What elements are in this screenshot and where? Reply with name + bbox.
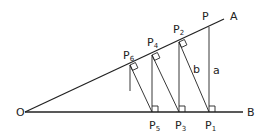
label-B: B xyxy=(247,106,255,119)
label-P2: P2 xyxy=(173,23,184,37)
label-A: A xyxy=(230,10,238,23)
segment-P5-P6 xyxy=(130,65,152,112)
segment-P1-P2-b xyxy=(179,42,209,112)
right-angle-marker-P2 xyxy=(179,40,187,48)
right-angle-marker-P6 xyxy=(130,63,138,71)
label-P4: P4 xyxy=(147,36,159,50)
segment-label-a: a xyxy=(213,64,220,77)
segment-label-b: b xyxy=(193,63,200,76)
label-P3: P3 xyxy=(175,119,186,133)
geometry-diagram: O A B P P2 P4 P6 P5 P3 P1 a b xyxy=(0,0,264,140)
right-angle-marker-P4 xyxy=(152,53,160,61)
label-O: O xyxy=(16,106,25,119)
label-P1: P1 xyxy=(205,119,216,133)
label-P6: P6 xyxy=(123,49,135,63)
label-P: P xyxy=(202,10,209,23)
segment-P3-P4 xyxy=(152,55,179,112)
right-angle-marker-P1 xyxy=(209,106,215,112)
label-P5: P5 xyxy=(149,119,160,133)
right-angle-marker-P5 xyxy=(152,106,158,112)
right-angle-marker-P3 xyxy=(179,106,185,112)
